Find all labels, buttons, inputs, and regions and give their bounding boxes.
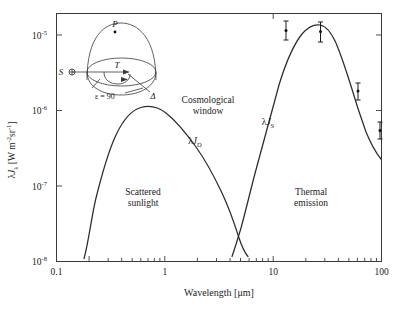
scattered-sunlight-line1: Scattered [125, 187, 161, 197]
curve-thermal-emission [232, 25, 381, 257]
figure-container: 10-5 10-6 10-7 10-8 0.1 1 10 100 Wavelen… [0, 0, 406, 311]
inset-dome-arc [87, 23, 156, 80]
inset-arrow-T [123, 70, 130, 75]
x-tick-label-0.1: 0.1 [51, 267, 63, 277]
inset-label-delta: Δ [149, 91, 155, 101]
x-tick-label-1: 1 [162, 267, 167, 277]
x-tick-labels: 0.1 1 10 100 [51, 267, 389, 277]
thermal-emission-line1: Thermal [295, 187, 328, 197]
annotation-thermal-emission: Thermal emission [294, 187, 328, 208]
y-tick-labels: 10-5 10-6 10-7 10-8 [32, 29, 48, 268]
annotation-cosmological-window: Cosmological window [182, 95, 235, 116]
cosmological-window-line1: Cosmological [182, 95, 235, 105]
inset-geometry-diagram: S P T Δ ε = 90 [59, 19, 156, 101]
y-tick-label-1e-8: 10-8 [32, 255, 47, 267]
y-tick-label-1e-6: 10-6 [32, 104, 48, 116]
y-tick-label-1e-5: 10-5 [32, 29, 47, 41]
plot-frame [57, 14, 382, 262]
thermal-emission-line2: emission [294, 198, 328, 208]
svg-text:λJλ [W m-2sr-1]: λJλ [W m-2sr-1] [5, 122, 19, 179]
y-axis-ticks [57, 35, 382, 262]
data-point-60um [356, 83, 361, 100]
inset-marker-P [114, 31, 117, 34]
x-tick-label-100: 100 [374, 267, 389, 277]
inset-epsilon-arc [104, 72, 130, 84]
inset-label-S: S [59, 67, 64, 77]
x-axis-title: Wavelength [μm] [184, 287, 254, 298]
inset-label-P: P [111, 19, 118, 29]
cosmological-window-line2: window [193, 106, 224, 116]
curve-label-lambda-JS: λJS [262, 117, 275, 129]
chart-svg: 10-5 10-6 10-7 10-8 0.1 1 10 100 Wavelen… [0, 0, 406, 311]
x-axis-ticks [89, 14, 381, 262]
annotation-scattered-sunlight: Scattered sunlight [125, 187, 161, 208]
data-point-12um [284, 21, 289, 40]
scattered-sunlight-line2: sunlight [128, 198, 159, 208]
inset-leader-epsilon2 [125, 88, 143, 93]
inset-label-epsilon: ε = 90 [95, 92, 115, 101]
inset-label-T: T [114, 60, 120, 70]
y-tick-label-1e-7: 10-7 [32, 180, 48, 192]
x-tick-label-10: 10 [268, 267, 278, 277]
curve-scattered-sunlight [84, 106, 248, 258]
y-axis-title: λJλ [W m-2sr-1] [5, 122, 19, 179]
